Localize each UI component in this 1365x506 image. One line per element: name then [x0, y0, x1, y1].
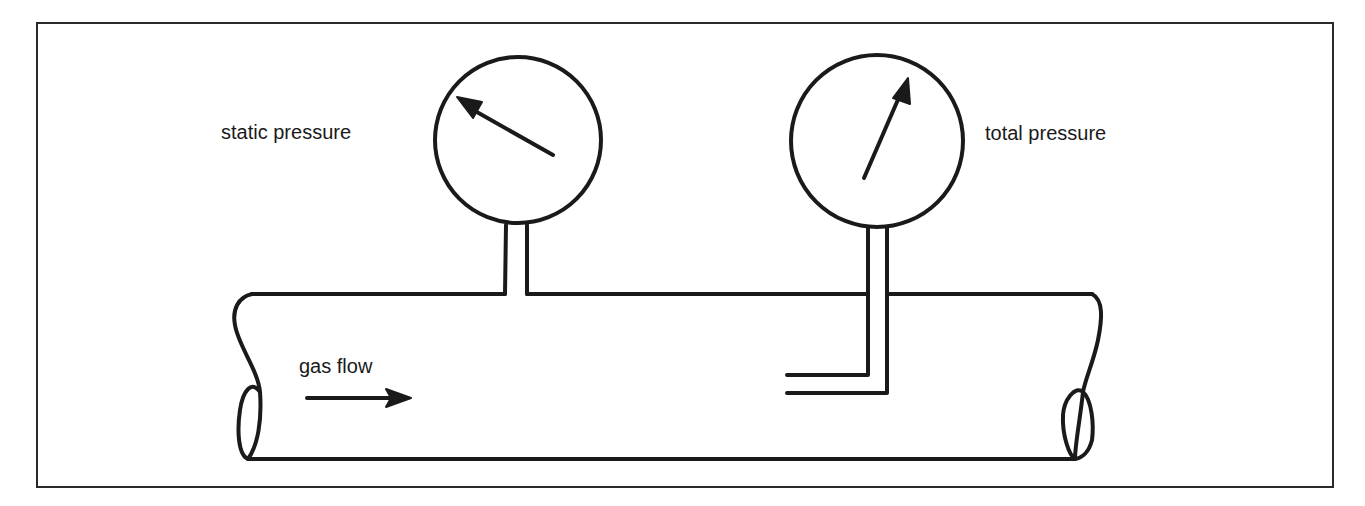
gas-flow-label: gas flow — [299, 355, 372, 378]
pitot-tube-outer — [787, 227, 887, 393]
static-gauge-needle — [468, 107, 553, 155]
static-pressure-label: static pressure — [221, 121, 351, 144]
total-pressure-label: total pressure — [985, 122, 1106, 145]
pitot-tube-inner — [787, 227, 868, 375]
static-gauge-dial — [435, 57, 601, 223]
total-gauge-needle — [864, 88, 903, 178]
pipe-left-break — [234, 294, 260, 459]
pipe-right-break — [1063, 294, 1101, 459]
pipe-pressure-diagram — [0, 0, 1365, 506]
static-tap-left — [505, 225, 506, 294]
total-gauge-dial — [791, 55, 963, 227]
total-needle-arrowhead-icon — [893, 78, 910, 104]
